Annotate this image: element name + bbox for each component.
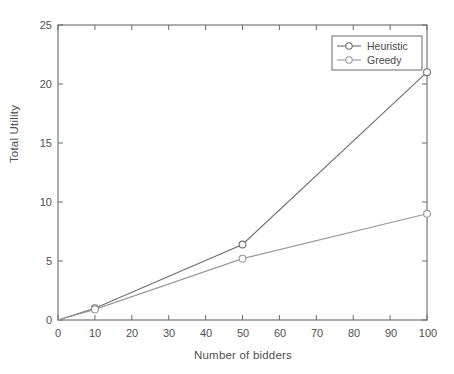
data-point-marker <box>239 255 246 262</box>
plot-area: HeuristicGreedy <box>0 0 454 374</box>
data-point-marker <box>424 210 431 217</box>
data-point-marker <box>92 306 99 313</box>
legend-label: Heuristic <box>367 40 408 52</box>
series-greedy <box>58 210 430 320</box>
data-point-marker <box>424 69 431 76</box>
data-point-marker <box>239 241 246 248</box>
figure-container: Total Utility Number of bidders 25 20 15… <box>0 0 454 374</box>
legend-label: Greedy <box>367 54 402 66</box>
data-series-layer <box>58 69 430 320</box>
series-heuristic <box>58 69 430 320</box>
chart-legend: HeuristicGreedy <box>332 36 422 70</box>
